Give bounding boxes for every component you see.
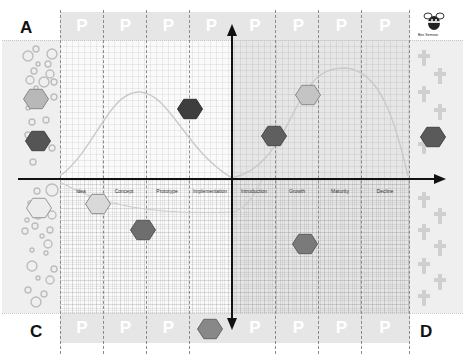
- y-axis-down-arrow-icon: [227, 318, 237, 330]
- hexagon-left-top-icon: [24, 89, 49, 108]
- hexagon-left-bottom-icon: [27, 198, 52, 217]
- stage-label-prototype: Prototype: [146, 188, 188, 194]
- hexagon-right-mid-icon: [421, 127, 446, 146]
- x-axis-arrow-icon: [434, 174, 446, 184]
- stage-label-maturity: Maturity: [319, 188, 361, 194]
- market-curve: [232, 68, 408, 178]
- hexagon-growth-low-icon: [293, 234, 318, 253]
- diagram-overlay: [0, 0, 465, 354]
- hexagon-implementation-icon: [178, 99, 203, 118]
- hexagon-concept-low-icon: [131, 220, 156, 239]
- y-axis-up-arrow-icon: [227, 24, 237, 36]
- stage-label-decline: Decline: [364, 188, 406, 194]
- development-curve: [60, 92, 232, 178]
- stage-label-concept: Concept: [103, 188, 145, 194]
- hexagon-bottom-band-icon: [198, 319, 223, 338]
- hexagon-left-mid-icon: [26, 131, 51, 150]
- stage-label-implementation: Implementation: [189, 188, 231, 194]
- stage-label-idea: Idea: [60, 188, 102, 194]
- stage-label-introduction: Introduction: [233, 188, 275, 194]
- hexagon-idea-icon: [86, 194, 111, 213]
- hexagon-introduction-icon: [262, 126, 287, 145]
- stage-label-growth: Growth: [276, 188, 318, 194]
